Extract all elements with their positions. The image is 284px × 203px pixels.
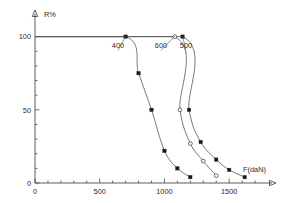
data-point-400 bbox=[150, 108, 153, 111]
data-point-600 bbox=[201, 159, 205, 163]
y-axis-tick-labels: 050100 bbox=[19, 32, 31, 187]
x-axis bbox=[35, 180, 276, 185]
data-point-500 bbox=[199, 140, 202, 143]
y-axis bbox=[32, 10, 37, 183]
rupture-force-chart: 050010001500 050100 400600500 R% F(daN) bbox=[0, 0, 284, 203]
data-point-400 bbox=[176, 167, 179, 170]
data-point-500 bbox=[187, 108, 190, 111]
curve-label-400: 400 bbox=[112, 41, 124, 50]
x-axis-ticks bbox=[35, 179, 255, 184]
curve-labels: 400600500 bbox=[112, 41, 192, 50]
data-point-500 bbox=[243, 175, 246, 178]
data-point-400 bbox=[189, 175, 192, 178]
chart-container: 050010001500 050100 400600500 R% F(daN) bbox=[0, 0, 284, 203]
curve-500 bbox=[35, 37, 245, 178]
x-axis-tick-labels: 050010001500 bbox=[33, 187, 237, 196]
x-tick-label: 500 bbox=[94, 187, 106, 196]
y-axis-ticks bbox=[35, 37, 40, 183]
data-point-600 bbox=[214, 174, 218, 178]
data-point-400 bbox=[137, 72, 140, 75]
x-axis-label: F(daN) bbox=[243, 165, 266, 174]
y-tick-label: 100 bbox=[19, 32, 31, 41]
curve-label-500: 500 bbox=[180, 41, 192, 50]
curve-label-600: 600 bbox=[155, 41, 167, 50]
curve-400 bbox=[35, 37, 190, 178]
data-point-600 bbox=[188, 142, 192, 146]
data-point-400 bbox=[163, 149, 166, 152]
data-curves bbox=[35, 37, 245, 178]
y-tick-label: 0 bbox=[27, 179, 31, 188]
data-point-500 bbox=[227, 168, 230, 171]
data-point-500 bbox=[215, 158, 218, 161]
data-markers bbox=[124, 35, 246, 179]
x-tick-label: 1500 bbox=[221, 187, 237, 196]
x-tick-label: 1000 bbox=[156, 187, 172, 196]
x-tick-label: 0 bbox=[33, 187, 37, 196]
data-point-600 bbox=[178, 108, 182, 112]
y-axis-label: R% bbox=[44, 10, 56, 19]
y-tick-label: 50 bbox=[23, 106, 31, 115]
